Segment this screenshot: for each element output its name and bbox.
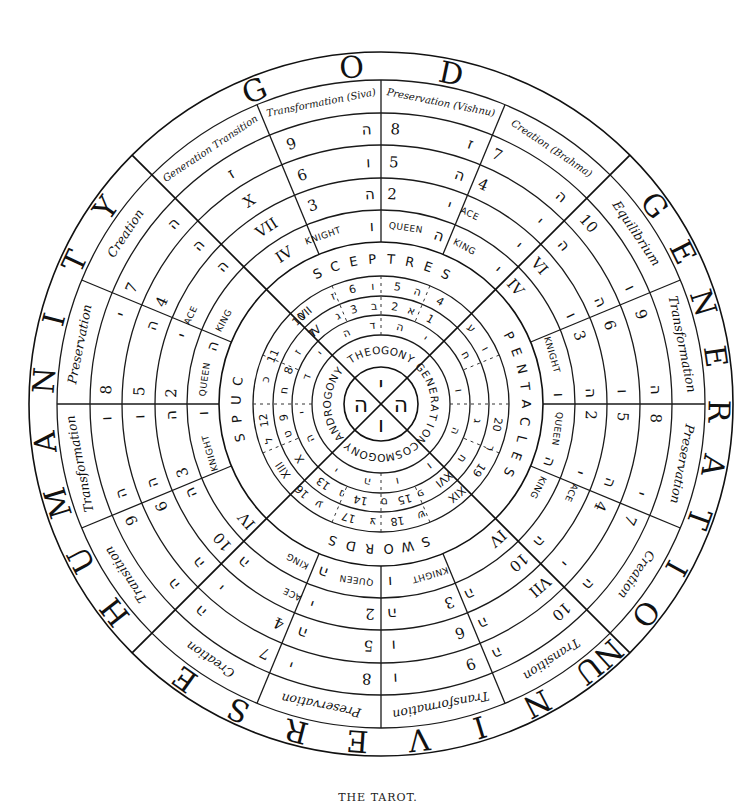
radial-dividers <box>57 80 705 728</box>
inner-cell: 2 <box>390 300 399 314</box>
suit-letter: S <box>310 265 324 282</box>
ring-cell: ה <box>489 643 506 663</box>
ring-cell: ה <box>552 186 571 206</box>
outer-letter: T <box>55 245 95 278</box>
sector-divider <box>82 466 232 528</box>
inner-cell: ר <box>483 443 497 454</box>
ring-cell: VI <box>527 253 552 278</box>
ring-cell: י <box>556 556 572 570</box>
outer-letter: E <box>662 234 703 269</box>
ring-cell: ו <box>621 282 639 293</box>
outer-divider <box>610 155 630 175</box>
ring-cell: ה <box>590 293 610 310</box>
suit-letter: W <box>400 538 416 555</box>
suit-letter: S <box>232 432 249 444</box>
outer-letter: D <box>436 54 467 93</box>
ring-cell: 2 <box>581 410 599 420</box>
ring-cell: ה <box>191 602 210 622</box>
ring-cell: ה <box>461 584 478 604</box>
inner-cell: ה <box>303 433 318 445</box>
inner-cell: ו <box>371 280 375 293</box>
suit-letter: E <box>508 346 525 359</box>
ring-cell: ה <box>111 486 131 501</box>
sector-label: Transition <box>521 635 583 683</box>
ring-cell: 10 <box>506 549 532 575</box>
ring-cell: ה <box>212 257 232 276</box>
center-hebrew-letter: ה <box>394 392 408 417</box>
ring-cell: 10 <box>548 598 574 624</box>
outer-divider <box>132 633 152 653</box>
ring-cell: 10 <box>209 529 235 555</box>
ring-cell: ACE <box>182 304 199 326</box>
ring-cell: 3 <box>442 592 457 612</box>
sector-label: Creation (Brahma) <box>509 117 594 179</box>
outer-letter: N <box>25 366 62 395</box>
ring-cell: 7 <box>257 643 273 663</box>
sector-divider <box>531 280 681 342</box>
ring-cell: י <box>445 196 454 214</box>
ring-cell: KNIGHT <box>200 434 220 473</box>
inner-cell: ו <box>479 344 492 353</box>
center-word-letter: A <box>428 404 441 413</box>
inner-cell: 5 <box>393 280 402 294</box>
inner-cell: 17 <box>340 509 357 525</box>
ring-cell: י <box>215 579 229 595</box>
inner-cell: 1 <box>424 312 437 327</box>
suit-letter: P <box>501 329 518 343</box>
ring-cell: ה <box>361 120 372 138</box>
ring-cell: KING <box>214 307 234 333</box>
ring-cell: ה <box>554 236 574 255</box>
inner-cell: 3 <box>349 303 359 317</box>
ring-cell: 9 <box>284 134 299 154</box>
outer-letter: I <box>658 555 694 582</box>
ring-cell: ה <box>163 214 183 233</box>
sector-label: Generation Transition <box>161 113 260 184</box>
center-hebrew-letter: י <box>379 372 384 397</box>
ring-cell: 8 <box>361 669 371 687</box>
suit-letter: C <box>328 258 341 275</box>
ring-cell: ה <box>579 575 599 594</box>
suit-letter: T <box>517 380 533 391</box>
suit-letter: O <box>383 541 394 557</box>
ring-cell: ו <box>550 392 568 397</box>
center-word-letter: R <box>321 408 334 418</box>
ring-cell: ו <box>366 153 371 171</box>
ring-cell: 4 <box>271 613 287 633</box>
suit-letter: E <box>508 449 525 462</box>
suit-letter: C <box>230 376 246 387</box>
center-word-letter: T <box>427 411 441 422</box>
suit-letter: C <box>517 416 533 427</box>
ring-cell: ה <box>539 454 559 469</box>
inner-cell: 6 <box>347 282 357 296</box>
ring-cell: 6 <box>452 623 467 643</box>
inner-cell: ו <box>395 475 401 488</box>
inner-cell: 20 <box>490 416 505 432</box>
suit-letter: E <box>348 254 359 270</box>
outer-letter: H <box>93 591 137 633</box>
inner-cell: ש <box>415 507 427 522</box>
ring-cell: KING <box>528 475 548 501</box>
inner-cell: כ <box>259 375 273 384</box>
figure-caption: THE TAROT. <box>0 791 756 804</box>
suit-letter: P <box>368 252 377 267</box>
inner-cell: ג <box>333 309 343 323</box>
inner-cell: ס <box>381 495 389 508</box>
center-hebrew-letter: ו <box>378 412 384 437</box>
ring-cell: ו <box>97 416 115 421</box>
ring-cell: ה <box>387 604 398 622</box>
suit-letter: S <box>326 532 339 549</box>
inner-cell: XVI <box>433 468 455 490</box>
ring-cell: 3 <box>172 465 192 480</box>
inner-cell: י <box>332 463 341 475</box>
ring-cell: ה <box>452 165 467 185</box>
outer-letter: M <box>37 483 79 523</box>
ring-cell: י <box>173 331 191 340</box>
ring-cell: ז <box>465 135 476 154</box>
center-word-letter: E <box>427 386 440 396</box>
ring-cell: 7 <box>122 280 142 296</box>
inner-cell: ב <box>371 300 378 313</box>
ring-cell: ה <box>646 384 664 395</box>
outer-letter: N <box>517 682 556 725</box>
inner-cell: י <box>296 410 309 414</box>
inner-cell: ח <box>458 349 473 362</box>
